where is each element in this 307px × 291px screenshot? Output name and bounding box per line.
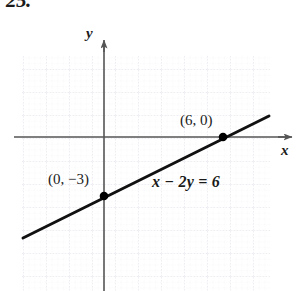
y-axis-label: y — [86, 26, 93, 41]
figure-page: 25. — [0, 0, 307, 291]
x-axis-label: x — [281, 143, 289, 158]
coordinate-plane-svg — [0, 0, 307, 291]
equation-label: x − 2y = 6 — [152, 174, 220, 190]
point-y-intercept — [100, 192, 109, 201]
point-label-y-intercept: (0, −3) — [48, 172, 89, 187]
coordinate-plane-figure: y x (6, 0) (0, −3) x − 2y = 6 — [0, 0, 307, 291]
point-x-intercept — [219, 133, 228, 142]
point-label-x-intercept: (6, 0) — [180, 113, 213, 128]
